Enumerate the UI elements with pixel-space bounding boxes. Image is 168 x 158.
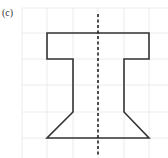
diagram-canvas	[0, 0, 168, 158]
